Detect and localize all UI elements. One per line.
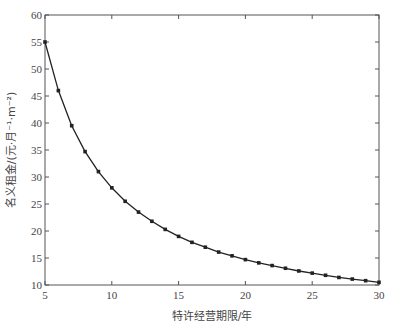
data-point <box>70 124 74 128</box>
data-point <box>257 261 261 265</box>
y-tick-label: 55 <box>31 36 43 48</box>
data-point <box>177 235 181 239</box>
x-tick-label: 25 <box>307 289 319 301</box>
y-tick-label: 20 <box>31 225 43 237</box>
data-point <box>364 279 368 283</box>
x-tick-label: 30 <box>374 289 386 301</box>
data-markers <box>43 40 381 284</box>
chart: 51015202530 1015202530354045505560 特许经营期… <box>0 0 396 327</box>
data-point <box>97 170 101 174</box>
y-tick-label: 35 <box>31 144 43 156</box>
y-tick-label: 10 <box>31 279 43 291</box>
data-point <box>350 277 354 281</box>
data-point <box>337 276 341 280</box>
data-point <box>297 269 301 273</box>
x-tick-label: 5 <box>42 289 48 301</box>
data-point <box>324 273 328 277</box>
data-point <box>43 40 47 44</box>
y-tick-label: 45 <box>31 90 43 102</box>
x-tick-label: 10 <box>106 289 118 301</box>
y-tick-label: 25 <box>31 198 43 210</box>
y-tick-label: 50 <box>31 63 43 75</box>
x-axis-title: 特许经营期限/年 <box>172 309 253 323</box>
data-point <box>217 250 221 254</box>
data-point <box>284 266 288 270</box>
data-point <box>377 281 381 285</box>
plot-frame <box>45 15 379 285</box>
y-tick-label: 15 <box>31 252 43 264</box>
data-point <box>244 258 248 262</box>
data-point <box>310 271 314 275</box>
data-point <box>163 228 167 232</box>
y-tick-label: 40 <box>31 117 43 129</box>
data-point <box>57 89 61 93</box>
data-line <box>45 42 379 282</box>
data-point <box>270 264 274 268</box>
data-point <box>83 150 87 154</box>
x-tick-label: 20 <box>240 289 252 301</box>
y-tick-label: 60 <box>31 9 43 21</box>
data-point <box>123 200 127 204</box>
x-axis-ticks: 51015202530 <box>42 15 385 301</box>
data-point <box>204 245 208 249</box>
data-point <box>230 254 234 258</box>
x-tick-label: 15 <box>173 289 185 301</box>
data-point <box>137 210 141 214</box>
y-axis-title: 名义租金/(元·月⁻¹·m⁻²) <box>4 92 18 208</box>
data-point <box>190 241 194 245</box>
data-point <box>150 219 154 223</box>
y-tick-label: 30 <box>31 171 43 183</box>
data-point <box>110 186 114 190</box>
